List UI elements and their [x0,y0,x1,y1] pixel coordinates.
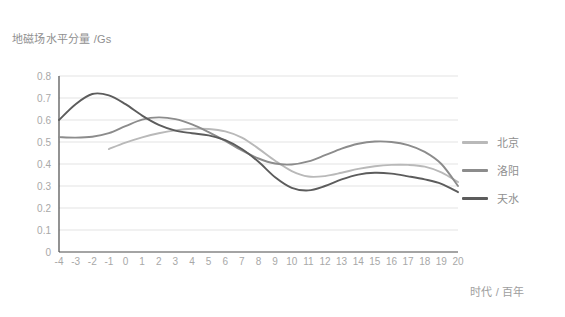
x-tick-label: 7 [239,256,245,267]
y-tick-label: 0.3 [37,181,51,192]
x-tick-label: -4 [55,256,64,267]
x-axis-title: 时代 / 百年 [470,283,525,299]
x-tick-label: 12 [319,256,331,267]
x-tick-label: 3 [173,256,179,267]
x-tick-label: 4 [189,256,195,267]
x-tick-label: 9 [272,256,278,267]
y-tick-label: 0.8 [37,71,51,82]
legend-label: 北京 [497,134,519,150]
series-lines [59,93,458,192]
legend-swatch-icon [462,141,488,144]
x-tick-label: 13 [336,256,348,267]
x-tick-label: 2 [156,256,162,267]
series-line-洛阳 [59,117,458,186]
y-tick-label: 0 [45,247,51,258]
x-tick-label: 8 [256,256,262,267]
x-tick-label: 20 [452,256,464,267]
x-tick-label: -1 [104,256,113,267]
x-tick-label: 16 [386,256,398,267]
x-tick-label: 0 [123,256,129,267]
x-tick-label: 17 [403,256,415,267]
x-tick-label: 11 [303,256,314,267]
x-tick-label: 6 [222,256,228,267]
x-tick-label: 14 [353,256,365,267]
x-tick-label: -2 [88,256,97,267]
x-tick-label: 5 [206,256,212,267]
y-tick-label: 0.1 [37,225,51,236]
chart-container: 地磁场水平分量 /Gs 00.10.20.30.40.50.60.70.8 -4… [0,0,565,317]
y-tick-label: 0.4 [37,159,51,170]
y-tick-labels: 00.10.20.30.40.50.60.70.8 [37,71,51,258]
x-tick-labels: -4-3-2-101234567891011121314151617181920 [55,256,464,267]
x-tick-label: 10 [286,256,298,267]
chart-legend: 北京 洛阳 天水 [462,128,557,212]
y-tick-label: 0.6 [37,115,51,126]
legend-item-beijing[interactable]: 北京 [462,128,557,156]
x-tick-label: -3 [71,256,80,267]
x-tick-label: 15 [369,256,381,267]
series-line-北京 [109,129,458,182]
legend-item-tianshui[interactable]: 天水 [462,184,557,212]
y-tick-label: 0.7 [37,93,51,104]
x-tick-label: 18 [419,256,431,267]
y-tick-label: 0.5 [37,137,51,148]
legend-item-luoyang[interactable]: 洛阳 [462,156,557,184]
legend-label: 天水 [497,190,519,206]
x-tick-label: 1 [139,256,145,267]
legend-swatch-icon [462,197,488,200]
y-tick-label: 0.2 [37,203,51,214]
legend-swatch-icon [462,169,488,172]
x-tick-label: 19 [436,256,448,267]
legend-label: 洛阳 [497,162,519,178]
